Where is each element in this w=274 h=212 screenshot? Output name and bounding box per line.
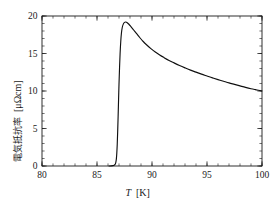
x-tick-label: 90 [147, 170, 157, 180]
y-tick-label: 5 [33, 124, 38, 134]
y-axis-title: 電気抵抗率 [μΩcm] [12, 80, 23, 162]
y-tick-label: 20 [28, 11, 38, 21]
y-tick-label: 10 [28, 86, 38, 96]
chart-background [0, 0, 274, 212]
y-tick-label: 15 [28, 49, 38, 59]
y-axis-title-text: 電気抵抗率 [12, 117, 23, 162]
x-tick-label: 85 [92, 170, 102, 180]
x-axis-title-unit: [K] [136, 187, 150, 198]
x-tick-label: 80 [37, 170, 47, 180]
x-tick-label: 100 [255, 170, 270, 180]
x-axis-title: T [K] [125, 187, 149, 198]
figure-container: 80859095100 05101520 T [K] 電気抵抗率 [μΩcm] [0, 0, 274, 212]
resistivity-vs-temperature-chart: 80859095100 05101520 T [K] 電気抵抗率 [μΩcm] [0, 0, 274, 212]
x-tick-label: 95 [202, 170, 212, 180]
y-axis-title-unit: [μΩcm] [12, 80, 23, 112]
y-tick-label: 0 [33, 161, 38, 171]
